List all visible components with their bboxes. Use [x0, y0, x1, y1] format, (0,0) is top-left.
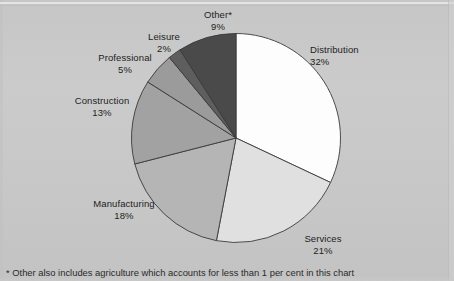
pie-label-manufacturing: Manufacturing 18%: [76, 198, 172, 221]
pie-label-services-value: 21%: [288, 245, 358, 257]
pie-label-other-value: 9%: [182, 21, 254, 33]
scan-artifact-top-line-secondary: [0, 5, 454, 6]
chart-canvas: Distribution 32% Services 21% Manufactur…: [0, 0, 454, 281]
scan-artifact-right-line: [448, 0, 449, 281]
pie-label-construction-value: 13%: [58, 107, 146, 119]
chart-footnote: * Other also includes agriculture which …: [6, 267, 452, 279]
pie-label-manufacturing-name: Manufacturing: [76, 198, 172, 210]
pie-label-leisure: Leisure 2%: [128, 31, 200, 54]
pie-label-leisure-value: 2%: [128, 43, 200, 55]
pie-label-services-name: Services: [288, 233, 358, 245]
pie-label-other-name: Other*: [182, 9, 254, 21]
pie-label-other: Other* 9%: [182, 9, 254, 32]
pie-label-distribution: Distribution 32%: [310, 44, 400, 67]
scan-artifact-left-edge: [0, 0, 3, 281]
pie-label-professional: Professional 5%: [84, 52, 166, 75]
scan-artifact-right-edge: [449, 0, 454, 281]
pie-label-construction: Construction 13%: [58, 95, 146, 118]
pie-label-leisure-name: Leisure: [128, 31, 200, 43]
pie-label-manufacturing-value: 18%: [76, 210, 172, 222]
pie-label-distribution-name: Distribution: [310, 44, 400, 56]
scan-artifact-top-line: [0, 2, 454, 4]
pie-label-services: Services 21%: [288, 233, 358, 256]
pie-label-distribution-value: 32%: [310, 56, 400, 68]
pie-label-construction-name: Construction: [58, 95, 146, 107]
pie-label-professional-value: 5%: [84, 64, 166, 76]
